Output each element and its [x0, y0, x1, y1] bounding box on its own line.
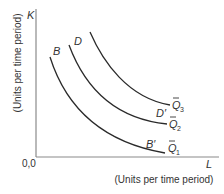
- y-axis-symbol: K: [27, 9, 35, 21]
- svg-text:3: 3: [180, 106, 184, 113]
- origin-label: 0,0: [22, 158, 36, 169]
- point-d-prime-label: D′: [156, 107, 167, 119]
- q3-label: Q 3: [172, 98, 184, 113]
- point-d-label: D: [74, 35, 82, 47]
- q2-label: Q 2: [169, 117, 181, 132]
- isoquant-diagram: K (Units per time period) L (Units per t…: [0, 0, 224, 194]
- point-b-label: B: [53, 45, 60, 57]
- svg-text:2: 2: [177, 125, 181, 132]
- y-axis-label: (Units per time period): [12, 14, 23, 113]
- x-axis-label: (Units per time period): [115, 174, 214, 185]
- q1-label: Q 1: [168, 141, 180, 156]
- isoquant-q2-curve: [69, 45, 167, 124]
- svg-text:1: 1: [176, 149, 180, 156]
- x-axis-symbol: L: [206, 158, 212, 170]
- isoquant-q3-curve: [90, 32, 170, 105]
- point-b-prime-label: B′: [146, 138, 156, 150]
